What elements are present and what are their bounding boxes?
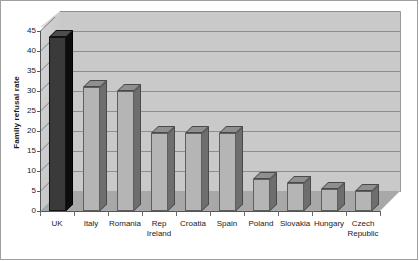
x-tick-mark xyxy=(380,211,381,216)
y-tick-label: 0 xyxy=(12,207,36,215)
x-label-czech-republic: Czech Republic xyxy=(342,219,384,239)
x-tick-mark xyxy=(142,211,143,216)
bar-italy xyxy=(83,87,100,211)
bar-czech-republic xyxy=(355,191,372,211)
y-tick-label: 5 xyxy=(12,187,36,195)
x-tick-mark xyxy=(210,211,211,216)
bar-front-face xyxy=(355,191,372,211)
gridline xyxy=(60,71,400,72)
x-tick-mark xyxy=(176,211,177,216)
x-tick-mark xyxy=(278,211,279,216)
y-axis-line xyxy=(40,31,41,211)
bar-rep-ireland xyxy=(151,133,168,211)
bar-side-face xyxy=(100,80,107,211)
x-tick-mark xyxy=(346,211,347,216)
x-tick-mark xyxy=(74,211,75,216)
bar-front-face xyxy=(185,133,202,211)
bar-side-face xyxy=(134,84,141,211)
y-tick-label: 25 xyxy=(12,107,36,115)
y-tick-label: 35 xyxy=(12,67,36,75)
gridline xyxy=(60,111,400,112)
bar-front-face xyxy=(49,37,66,211)
bar-poland xyxy=(253,179,270,211)
y-tick-label: 10 xyxy=(12,167,36,175)
x-tick-mark xyxy=(312,211,313,216)
bar-front-face xyxy=(117,91,134,211)
bar-spain xyxy=(219,133,236,211)
bar-front-face xyxy=(321,189,338,211)
x-tick-mark xyxy=(244,211,245,216)
y-tick-label: 15 xyxy=(12,147,36,155)
y-tick-label: 20 xyxy=(12,127,36,135)
y-tick-label: 30 xyxy=(12,87,36,95)
bar-side-face xyxy=(66,30,73,211)
bar-slovakia xyxy=(287,183,304,211)
bar-front-face xyxy=(287,183,304,211)
family-refusal-rate-bar-chart: Family refusal rate 051015202530354045 U… xyxy=(0,0,419,261)
y-tick-label: 45 xyxy=(12,27,36,35)
gridline xyxy=(60,51,400,52)
bar-croatia xyxy=(185,133,202,211)
bar-front-face xyxy=(219,133,236,211)
x-tick-mark xyxy=(108,211,109,216)
gridline xyxy=(60,11,400,12)
bar-uk xyxy=(49,37,66,211)
bar-hungary xyxy=(321,189,338,211)
x-tick-mark xyxy=(40,211,41,216)
gridline xyxy=(60,91,400,92)
bar-side-face xyxy=(202,126,209,211)
y-tick-label: 40 xyxy=(12,47,36,55)
bar-side-face xyxy=(236,126,243,211)
bar-front-face xyxy=(151,133,168,211)
bar-romania xyxy=(117,91,134,211)
bar-side-face xyxy=(168,126,175,211)
bar-front-face xyxy=(253,179,270,211)
gridline xyxy=(60,31,400,32)
plot-area: 051015202530354045 UKItalyRomaniaRep Ire… xyxy=(0,0,419,261)
bar-front-face xyxy=(83,87,100,211)
